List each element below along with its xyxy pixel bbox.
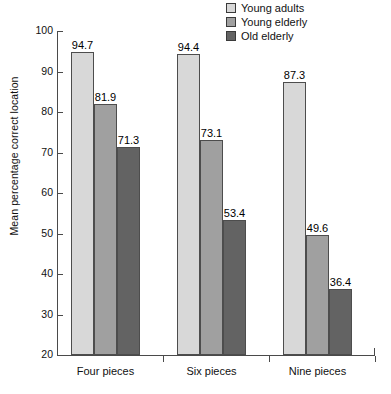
x-axis-line [57, 355, 375, 356]
x-axis-tick [269, 356, 270, 362]
bar: 49.6 [306, 235, 329, 355]
y-axis-tick-label: 80 [41, 105, 53, 117]
y-axis-tick-label: 100 [35, 24, 53, 36]
bar-value-label: 36.4 [330, 276, 351, 288]
bar-value-label: 73.1 [201, 127, 222, 139]
bar-value-label: 87.3 [284, 69, 305, 81]
y-axis-tick: 40 [57, 274, 63, 275]
bar-value-label: 94.7 [72, 39, 93, 51]
bar: 87.3 [283, 82, 306, 355]
bar-chart-figure: Young adultsYoung elderlyOld elderly Mea… [0, 0, 391, 394]
bar-value-label: 53.4 [224, 207, 245, 219]
bar: 94.7 [71, 52, 94, 355]
bar: 73.1 [200, 140, 223, 355]
bar-value-label: 81.9 [95, 91, 116, 103]
legend-item[interactable]: Young elderly [226, 15, 386, 29]
y-axis-tick: 100 [57, 31, 63, 32]
y-axis-tick: 60 [57, 193, 63, 194]
legend-item[interactable]: Young adults [226, 1, 386, 15]
y-axis-tick-label: 50 [41, 227, 53, 239]
y-axis-tick: 80 [57, 112, 63, 113]
y-axis-tick-label: 40 [41, 267, 53, 279]
bar: 71.3 [117, 147, 140, 355]
y-axis-tick-label: 60 [41, 186, 53, 198]
y-axis-tick-label: 30 [41, 308, 53, 320]
x-axis-group-label: Four pieces [77, 365, 134, 377]
bar: 53.4 [223, 220, 246, 355]
y-axis-tick: 30 [57, 315, 63, 316]
legend-item-label: Young elderly [241, 16, 307, 28]
x-axis-tick [163, 356, 164, 362]
x-axis-end-tick [374, 348, 375, 356]
y-axis-tick: 50 [57, 234, 63, 235]
y-axis-tick: 20 [57, 355, 63, 356]
y-axis-tick: 70 [57, 153, 63, 154]
legend-swatch-icon [226, 17, 236, 27]
y-axis-tick: 90 [57, 72, 63, 73]
bar-value-label: 49.6 [307, 222, 328, 234]
x-axis-tick [375, 356, 376, 362]
bar-value-label: 71.3 [118, 134, 139, 146]
bar: 36.4 [329, 289, 352, 355]
plot-area: 203040506070809010094.781.971.3Four piec… [57, 31, 375, 355]
x-axis-group-label: Nine pieces [289, 365, 346, 377]
y-axis-tick-label: 70 [41, 146, 53, 158]
bar-value-label: 94.4 [178, 41, 199, 53]
legend-swatch-icon [226, 3, 236, 13]
y-axis-tick-label: 20 [41, 348, 53, 360]
bar: 81.9 [94, 104, 117, 355]
y-axis-title: Mean percentage correct location [8, 56, 20, 256]
x-axis-group-label: Six pieces [186, 365, 236, 377]
y-axis-tick-label: 90 [41, 65, 53, 77]
legend-item-label: Young adults [241, 2, 304, 14]
bar: 94.4 [177, 54, 200, 355]
